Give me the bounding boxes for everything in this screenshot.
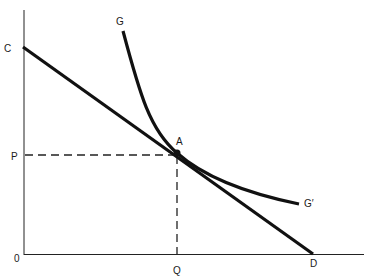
- label-g-prime: G′: [304, 198, 314, 209]
- label-q: Q: [173, 265, 181, 276]
- tangency-point-a: [174, 150, 181, 157]
- indifference-curve-gg: [123, 31, 299, 204]
- label-p: P: [11, 151, 18, 162]
- tangency-diagram: C G A P G′ 0 Q D: [0, 0, 367, 278]
- label-d: D: [310, 258, 317, 269]
- label-origin: 0: [14, 253, 20, 264]
- label-c: C: [4, 43, 11, 54]
- label-g: G: [116, 16, 124, 27]
- budget-line-cd: [23, 47, 313, 254]
- label-a: A: [176, 136, 183, 147]
